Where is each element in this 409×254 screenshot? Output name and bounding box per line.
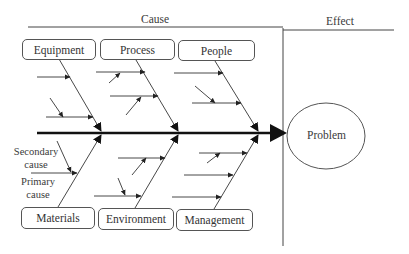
category-process: Process [100,39,175,60]
category-equipment: Equipment [22,39,96,60]
secondary-cause-label: Secondary cause [11,146,61,171]
rib-equipment [37,59,101,131]
effect-label: Effect [326,15,354,27]
primary-cause-line2: cause [16,189,60,202]
cause-label: Cause [141,13,169,25]
rib-process [96,60,178,131]
rib-people [174,61,258,131]
primary-cause-line1: Primary [16,176,60,189]
category-people: People [178,40,255,61]
secondary-cause-line2: cause [11,159,61,172]
category-materials: Materials [21,207,95,229]
rib-management [172,135,258,209]
secondary-cause-line1: Secondary [11,146,61,159]
problem-label: Problem [307,129,346,141]
rib-environment [94,135,178,208]
spine-arrowhead [270,124,287,142]
category-environment: Environment [98,208,174,230]
primary-cause-label: Primary cause [16,176,60,201]
category-management: Management [176,209,253,231]
